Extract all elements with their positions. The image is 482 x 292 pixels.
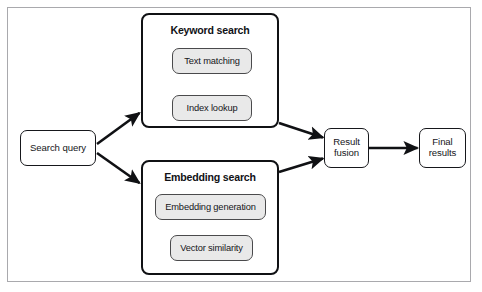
node-text-matching-label: Text matching [184,56,239,66]
node-vector-similarity[interactable]: Vector similarity [170,235,253,261]
node-embedding-generation[interactable]: Embedding generation [155,194,266,220]
node-search-query[interactable]: Search query [20,130,96,166]
node-final-results[interactable]: Final results [419,128,466,168]
node-result-fusion-line2: fusion [334,148,359,159]
node-index-lookup-label: Index lookup [187,103,238,113]
node-result-fusion[interactable]: Result fusion [324,128,369,168]
group-keyword-search-title: Keyword search [143,24,277,36]
node-vector-similarity-label: Vector similarity [180,243,243,253]
group-embedding-search-title: Embedding search [143,171,277,183]
node-search-query-label: Search query [30,143,86,154]
diagram-figure: Search query Keyword search Text matchin… [0,0,482,292]
node-final-results-line2: results [429,148,457,159]
node-index-lookup[interactable]: Index lookup [172,95,252,121]
node-text-matching[interactable]: Text matching [172,48,252,74]
node-embedding-generation-label: Embedding generation [165,202,256,212]
